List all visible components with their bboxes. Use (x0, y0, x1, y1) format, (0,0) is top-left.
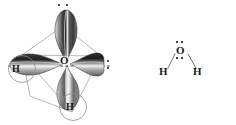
lone-pair-dot (176, 57, 178, 59)
lone-pair-dot (66, 4, 68, 6)
orbital-hydrogen-bottom-label: H (66, 102, 74, 112)
lewis-structure-svg (120, 0, 236, 125)
lewis-lone-pair-bottom-dots (175, 56, 187, 61)
lone-pair-dot (107, 67, 109, 69)
orbital-lone-pair-right-dots (106, 60, 112, 74)
lewis-hydrogen-right-label: H (193, 66, 202, 77)
lone-pair-dot (58, 4, 60, 6)
lewis-oxygen-label: O (176, 45, 185, 56)
lone-pair-dot (176, 41, 178, 43)
lone-pair-dot (181, 57, 183, 59)
lone-pair-dot (181, 41, 183, 43)
orbital-hydrogen-left-label: H (12, 64, 20, 74)
lewis-bond-left (168, 54, 175, 68)
orbital-model-diagram: O H H (0, 0, 120, 125)
lewis-lone-pair-top-dots (175, 40, 187, 45)
lewis-structure-diagram: O H H (120, 0, 236, 125)
orbital-oxygen-label: O (60, 55, 69, 66)
lewis-hydrogen-left-label: H (159, 66, 168, 77)
lone-pair-dot (107, 60, 109, 62)
orbital-lone-pair-top-dots (57, 3, 73, 9)
figure-canvas: O H H O H H (0, 0, 236, 125)
orbital-lobe-right (70, 53, 104, 76)
